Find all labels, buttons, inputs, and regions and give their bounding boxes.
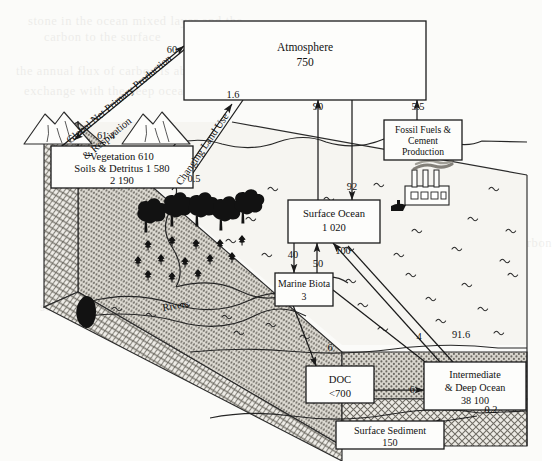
flux-label-deep-to-sediment: 0.2 (485, 404, 498, 415)
flux-label-landuse-up: 1.6 (227, 89, 240, 100)
flux-label-biota-to-ocean: 50 (313, 258, 323, 269)
surface-ocean-value: 1 020 (322, 222, 346, 233)
deep-ocean-line-2: & Deep Ocean (445, 382, 506, 393)
flux-label-surface-to-deep: 91.6 (452, 329, 470, 340)
doc-label: DOC (329, 374, 351, 385)
marine-biota-value: 3 (302, 291, 307, 302)
flux-label-fossil-to-atm: 5.5 (412, 101, 425, 112)
flux-label-npp-up: 60 (167, 44, 177, 55)
marine-biota-label: Marine Biota (278, 278, 331, 289)
vegetation-line-3: 2 190 (110, 175, 134, 186)
flux-label-doc-to-deep: 6 (409, 384, 414, 395)
sediment-label: Surface Sediment (354, 425, 426, 436)
flux-label-ocean-to-atm: 90 (313, 101, 323, 112)
deep-ocean-line-1: Intermediate (449, 369, 501, 380)
fossil-line-3: Production (402, 146, 444, 157)
flux-label-atm-to-ocean: 92 (347, 181, 357, 192)
fossil-line-2: Cement (408, 135, 438, 146)
vegetation-line-2: Soils & Detritus 1 580 (74, 163, 169, 174)
flux-label-biota-to-doc: 6 (327, 342, 332, 353)
fossil-line-1: Fossil Fuels & (395, 124, 452, 135)
sediment-value: 150 (382, 437, 397, 448)
flux-label-ocean-to-biota: 40 (288, 249, 298, 260)
flux-label-biota-to-deep: 4 (416, 331, 422, 342)
vegetation-line-1: Vegetation 610 (90, 151, 154, 162)
doc-value: <700 (329, 388, 351, 399)
surface-ocean-label: Surface Ocean (303, 208, 366, 219)
atmosphere-label: Atmosphere (277, 41, 333, 54)
flux-label-deep-to-surface: 100 (335, 245, 351, 256)
atmosphere-value: 750 (296, 56, 314, 68)
